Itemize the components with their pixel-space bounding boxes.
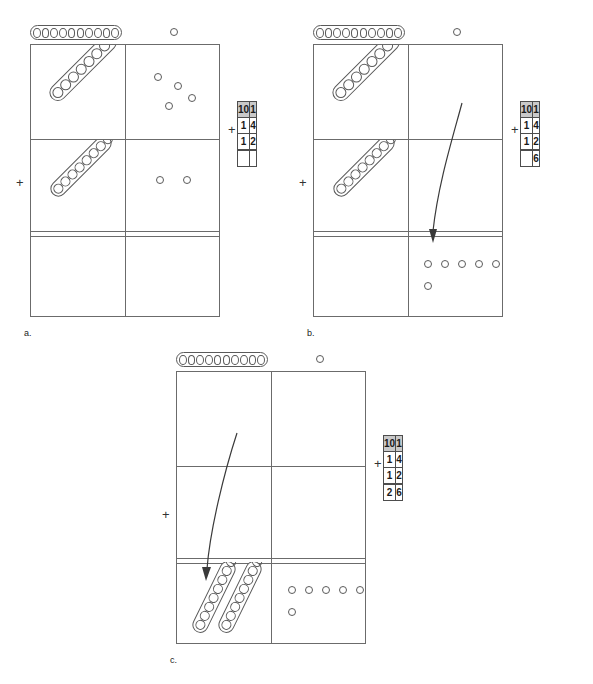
cell-a-sum-ones — [126, 235, 220, 317]
answer-ones[interactable]: 6 — [396, 484, 403, 501]
one-unit — [458, 260, 466, 268]
one-unit — [441, 260, 449, 268]
table-row: 1 2 — [521, 134, 540, 151]
place-value-table-a: 10 1 1 4 1 2 — [237, 101, 257, 167]
table-answer-row: 2 6 — [384, 484, 403, 501]
place-value-table-c: 10 1 1 4 1 2 2 6 — [383, 435, 403, 501]
header-ones: 1 — [533, 102, 540, 118]
header-ones: 1 — [396, 436, 403, 452]
one-unit-icon — [316, 355, 324, 363]
place-value-grid-c — [176, 371, 366, 644]
one-unit — [156, 176, 164, 184]
panel-label-b: b. — [307, 328, 315, 338]
addend1-tens: 1 — [384, 452, 396, 468]
bead — [205, 355, 213, 365]
cell-a-r2-ones — [126, 140, 220, 231]
bead — [50, 28, 58, 38]
addend2-tens: 1 — [521, 134, 533, 151]
cell-c-sum-tens — [177, 562, 271, 644]
table-header-row: 10 1 — [238, 102, 257, 118]
one-unit — [183, 176, 191, 184]
bead — [223, 355, 231, 365]
one-unit — [424, 260, 432, 268]
one-unit — [165, 102, 173, 110]
table-answer-row: 6 — [521, 150, 540, 167]
ten-rod — [329, 45, 403, 105]
bead — [368, 28, 376, 38]
legend-row-c — [176, 352, 356, 370]
one-unit — [492, 260, 500, 268]
addend1-ones: 4 — [250, 118, 257, 134]
table-row: 1 4 — [238, 118, 257, 134]
one-unit — [339, 586, 347, 594]
ten-rod-icon — [30, 25, 122, 40]
table-header-row: 10 1 — [521, 102, 540, 118]
one-unit — [322, 586, 330, 594]
addition-sign-table-a: + — [228, 123, 236, 136]
addition-sign-table-c: + — [374, 457, 382, 470]
table-row: 1 2 — [384, 468, 403, 485]
addend2-tens: 1 — [238, 134, 250, 151]
bead — [351, 28, 359, 38]
cell-c-sum-ones — [272, 562, 366, 644]
cell-b-r1-tens — [314, 45, 408, 139]
cell-c-r1-ones — [272, 372, 366, 466]
cell-a-r1-tens — [31, 45, 125, 139]
answer-tens[interactable] — [521, 150, 533, 167]
one-unit — [188, 94, 196, 102]
cell-b-r1-ones — [409, 45, 503, 139]
ten-rod-icon — [313, 25, 405, 40]
bead — [196, 355, 204, 365]
cell-a-r2-tens — [31, 140, 125, 231]
answer-ones[interactable] — [250, 150, 257, 167]
addition-sign-a: + — [16, 176, 24, 189]
bead — [179, 355, 187, 365]
table-answer-row — [238, 150, 257, 167]
bead — [333, 28, 341, 38]
addend2-ones: 2 — [533, 134, 540, 151]
answer-tens[interactable]: 2 — [384, 484, 396, 501]
bead — [325, 28, 333, 38]
bead — [85, 28, 93, 38]
addend1-tens: 1 — [521, 118, 533, 134]
bead — [111, 28, 119, 38]
bead — [77, 28, 85, 38]
place-value-grid-b — [313, 44, 503, 317]
cell-a-r1-ones — [126, 45, 220, 139]
one-unit — [174, 82, 182, 90]
bead — [231, 355, 239, 365]
header-ones: 1 — [250, 102, 257, 118]
cell-b-sum-ones — [409, 235, 503, 317]
one-unit — [305, 586, 313, 594]
addend2-ones: 2 — [396, 468, 403, 485]
bead — [214, 355, 222, 365]
one-unit — [475, 260, 483, 268]
legend-row-b — [313, 25, 493, 43]
bead — [377, 28, 385, 38]
ten-rod — [46, 45, 120, 105]
panel-label-c: c. — [170, 655, 177, 665]
bead — [42, 28, 50, 38]
addend2-tens: 1 — [384, 468, 396, 485]
legend-row-a — [30, 25, 210, 43]
ten-rod — [47, 140, 115, 200]
bead — [240, 355, 248, 365]
table-header-row: 10 1 — [384, 436, 403, 452]
answer-tens[interactable] — [238, 150, 250, 167]
cell-b-sum-tens — [314, 235, 408, 317]
addend1-ones: 4 — [396, 452, 403, 468]
bead — [342, 28, 350, 38]
bead — [249, 355, 257, 365]
bead — [33, 28, 41, 38]
addition-sign-table-b: + — [511, 123, 519, 136]
bead — [103, 28, 111, 38]
bead — [94, 28, 102, 38]
cell-c-r2-tens — [177, 467, 271, 558]
answer-ones[interactable]: 6 — [533, 150, 540, 167]
table-row: 1 4 — [521, 118, 540, 134]
addend1-ones: 4 — [533, 118, 540, 134]
bead — [188, 355, 196, 365]
one-unit — [424, 282, 432, 290]
cell-c-r1-tens — [177, 372, 271, 466]
ten-rod — [330, 140, 398, 200]
